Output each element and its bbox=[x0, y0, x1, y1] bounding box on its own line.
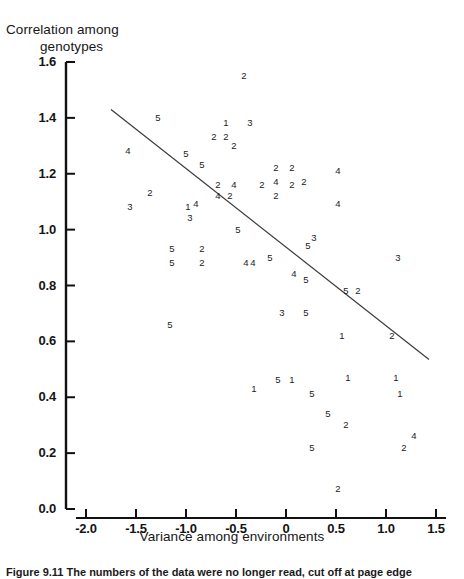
data-point: 5 bbox=[301, 308, 311, 318]
y-tick-label: 0.2 bbox=[12, 445, 56, 460]
data-point: 5 bbox=[265, 253, 275, 263]
y-tick-label: 0.6 bbox=[12, 333, 56, 348]
data-point: 5 bbox=[233, 225, 243, 235]
data-point: 5 bbox=[301, 275, 311, 285]
data-point: 5 bbox=[303, 241, 313, 251]
data-point: 2 bbox=[271, 163, 281, 173]
data-point: 1 bbox=[221, 118, 231, 128]
data-point: 5 bbox=[307, 443, 317, 453]
y-axis-ticks bbox=[66, 62, 75, 509]
data-point: 2 bbox=[145, 188, 155, 198]
y-tick-label: 1.4 bbox=[12, 110, 56, 125]
data-point: 2 bbox=[213, 180, 223, 190]
data-point: 1 bbox=[395, 389, 405, 399]
data-point: 2 bbox=[333, 484, 343, 494]
y-tick-label: 0.0 bbox=[12, 501, 56, 516]
data-point: 2 bbox=[225, 191, 235, 201]
data-point: 4 bbox=[248, 258, 258, 268]
data-point: 2 bbox=[399, 443, 409, 453]
data-point: 5 bbox=[153, 113, 163, 123]
data-point: 2 bbox=[257, 180, 267, 190]
data-point: 4 bbox=[191, 199, 201, 209]
data-point: 3 bbox=[125, 202, 135, 212]
data-point: 5 bbox=[323, 409, 333, 419]
y-tick-label: 0.4 bbox=[12, 389, 56, 404]
y-tick-label: 1.6 bbox=[12, 54, 56, 69]
data-point: 1 bbox=[391, 373, 401, 383]
data-point: 5 bbox=[273, 375, 283, 385]
data-point: 5 bbox=[181, 149, 191, 159]
y-tick-label: 1.2 bbox=[12, 166, 56, 181]
data-point: 2 bbox=[271, 191, 281, 201]
data-point: 5 bbox=[165, 320, 175, 330]
trend-line bbox=[111, 109, 429, 359]
data-point: 1 bbox=[287, 375, 297, 385]
data-point: 1 bbox=[343, 373, 353, 383]
data-point: 4 bbox=[409, 431, 419, 441]
data-point: 3 bbox=[277, 308, 287, 318]
y-tick-label: 1.0 bbox=[12, 222, 56, 237]
figure-caption: Figure 9.11 The numbers of the data were… bbox=[6, 566, 458, 579]
data-point: 2 bbox=[353, 286, 363, 296]
data-point: 4 bbox=[271, 177, 281, 187]
axis-lines bbox=[66, 62, 448, 518]
data-point: 5 bbox=[167, 244, 177, 254]
data-point: 5 bbox=[167, 258, 177, 268]
data-point: 4 bbox=[289, 269, 299, 279]
data-point: 4 bbox=[333, 166, 343, 176]
data-point: 1 bbox=[337, 331, 347, 341]
data-point: 2 bbox=[197, 258, 207, 268]
data-point: 5 bbox=[197, 160, 207, 170]
data-point: 5 bbox=[341, 286, 351, 296]
data-point: 1 bbox=[249, 384, 259, 394]
data-point: 2 bbox=[287, 163, 297, 173]
y-tick-label: 0.8 bbox=[12, 278, 56, 293]
data-point: 4 bbox=[123, 146, 133, 156]
data-point: 3 bbox=[245, 118, 255, 128]
data-point: 3 bbox=[393, 253, 403, 263]
data-point: 5 bbox=[307, 389, 317, 399]
data-point: 2 bbox=[299, 177, 309, 187]
data-point: 3 bbox=[185, 213, 195, 223]
data-point: 2 bbox=[341, 420, 351, 430]
data-point: 4 bbox=[333, 199, 343, 209]
data-point: 2 bbox=[287, 180, 297, 190]
data-point: 4 bbox=[229, 180, 239, 190]
data-point: 2 bbox=[197, 244, 207, 254]
x-axis-title: Variance among environments bbox=[0, 529, 464, 544]
x-axis-ticks bbox=[86, 509, 436, 518]
plot-axes bbox=[0, 0, 464, 579]
data-point: 2 bbox=[209, 132, 219, 142]
data-point: 4 bbox=[213, 191, 223, 201]
figure-scatter-plot: Correlation among genotypes 0.00.20.40.6… bbox=[0, 0, 464, 579]
data-point: 2 bbox=[387, 331, 397, 341]
data-point: 2 bbox=[229, 141, 239, 151]
data-point: 2 bbox=[239, 71, 249, 81]
